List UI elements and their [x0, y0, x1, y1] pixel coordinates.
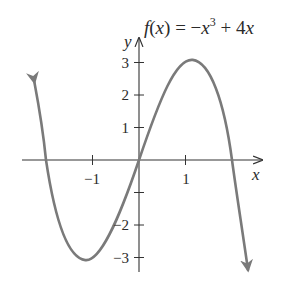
y-tick-label: 2 [122, 87, 130, 103]
function-title: f(x) = −x3 + 4x [144, 15, 254, 39]
y-tick-label: −3 [113, 250, 129, 266]
x-tick-label: −1 [84, 171, 100, 187]
y-tick-label: −2 [113, 217, 129, 233]
curve-f [34, 60, 248, 270]
function-graph: −1 1 3 2 1 −2 −3 x y f(x) = −x3 + 4x [0, 0, 282, 294]
x-tick-label: 1 [182, 171, 190, 187]
x-axis-label: x [251, 165, 260, 184]
y-axis-label: y [122, 32, 132, 51]
y-tick-label: 3 [122, 55, 130, 71]
y-tick-label: 1 [122, 120, 130, 136]
